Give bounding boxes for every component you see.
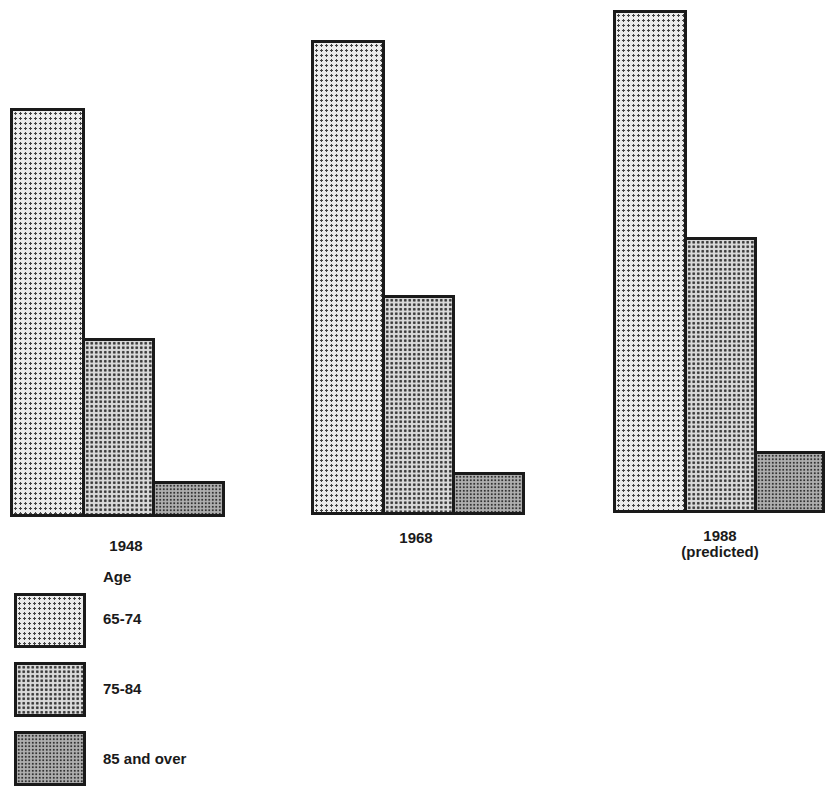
bar-1968-65-74 [311, 40, 385, 515]
bar-1988-85-and-over [754, 451, 825, 513]
x-label-text: 1988 [660, 528, 780, 544]
legend-swatch-65-74 [14, 593, 86, 648]
x-label-1968: 1968 [366, 530, 466, 546]
bar-1948-65-74 [10, 108, 85, 517]
legend-label-85-and-over: 85 and over [103, 750, 186, 767]
x-label-1988: 1988 (predicted) [660, 528, 780, 560]
x-label-1948: 1948 [76, 538, 176, 554]
legend-label-75-84: 75-84 [103, 680, 141, 697]
legend-title: Age [103, 568, 131, 585]
bar-1988-65-74 [613, 10, 687, 513]
bar-1968-85-and-over [452, 472, 525, 515]
legend-swatch-85-and-over [14, 731, 86, 786]
x-label-subtext: (predicted) [660, 544, 780, 560]
bar-1948-85-and-over [152, 481, 225, 517]
x-label-text: 1968 [399, 529, 432, 546]
legend-label-65-74: 65-74 [103, 610, 141, 627]
bar-1948-75-84 [82, 338, 155, 517]
legend-swatch-75-84 [14, 662, 86, 717]
bar-1968-75-84 [382, 295, 455, 515]
x-label-text: 1948 [109, 537, 142, 554]
bar-1988-75-84 [684, 237, 757, 513]
